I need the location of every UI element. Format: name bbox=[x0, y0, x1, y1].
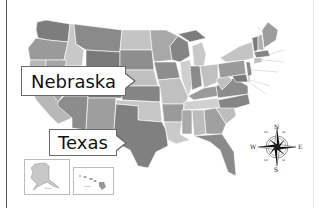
state-iowa[interactable] bbox=[154, 62, 180, 80]
state-massachusetts[interactable] bbox=[254, 50, 270, 58]
callout-texas: Texas bbox=[49, 129, 117, 156]
compass-west-label: W bbox=[250, 143, 256, 150]
compass-ne-label: NE bbox=[282, 131, 285, 134]
compass-se-label: SE bbox=[282, 159, 285, 162]
compass-east-label: E bbox=[298, 143, 302, 150]
state-florida[interactable] bbox=[194, 134, 236, 176]
compass-north-label: N bbox=[274, 123, 279, 130]
state-maine[interactable] bbox=[262, 22, 278, 48]
compass-sw-label: SW bbox=[264, 159, 268, 162]
state-ohio[interactable] bbox=[200, 64, 218, 88]
state-new-jersey[interactable] bbox=[246, 62, 252, 78]
state-mississippi[interactable] bbox=[182, 110, 192, 134]
hawaii-label: Hawaii bbox=[84, 185, 91, 187]
state-new-york[interactable] bbox=[220, 42, 254, 62]
compass-nw-label: NW bbox=[264, 131, 268, 134]
hawaii-shape bbox=[74, 168, 113, 194]
callout-nebraska-label: Nebraska bbox=[31, 71, 116, 92]
state-oregon[interactable] bbox=[28, 38, 68, 60]
compass-south-label: S bbox=[274, 166, 278, 173]
state-arkansas[interactable] bbox=[162, 104, 184, 122]
callout-nebraska: Nebraska bbox=[21, 66, 126, 96]
state-new-mexico[interactable] bbox=[86, 98, 116, 130]
state-indiana[interactable] bbox=[190, 66, 202, 90]
alaska-label: Alaska bbox=[45, 187, 52, 189]
state-michigan[interactable] bbox=[192, 42, 206, 66]
state-delaware[interactable] bbox=[248, 76, 250, 82]
callout-texas-label: Texas bbox=[58, 132, 108, 153]
state-alabama[interactable] bbox=[192, 110, 206, 136]
state-connecticut[interactable] bbox=[254, 58, 262, 64]
state-north-dakota[interactable] bbox=[120, 30, 152, 50]
alaska-inset: Alaska bbox=[24, 159, 70, 195]
hawaii-inset: Hawaii bbox=[73, 167, 114, 195]
